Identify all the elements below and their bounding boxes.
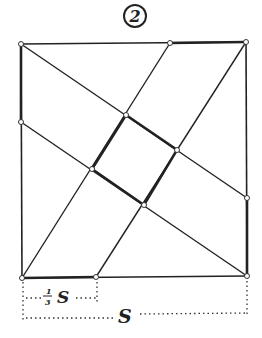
figure-number: 2	[128, 7, 140, 26]
dimension-labels: 1 3 S S	[43, 286, 132, 327]
cut-lines	[21, 42, 247, 278]
square-dissection-diagram: 2	[0, 0, 262, 338]
figure-number-badge: 2	[124, 5, 146, 27]
fraction-numerator: 1	[46, 286, 52, 296]
third-side-label: S	[57, 287, 69, 307]
vertex-markers	[19, 40, 250, 281]
fraction-denominator: 3	[45, 297, 51, 307]
full-side-label: S	[118, 305, 132, 327]
outer-square	[21, 42, 247, 278]
inner-square	[92, 115, 177, 205]
